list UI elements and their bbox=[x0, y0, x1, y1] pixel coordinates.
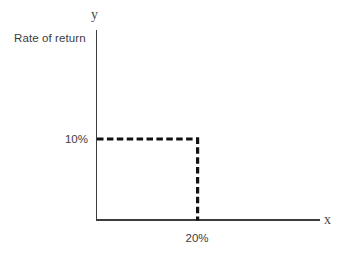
x-axis-tick-label-20-percent: 20% bbox=[147, 233, 247, 245]
y-axis-symbol-label: y bbox=[91, 8, 98, 22]
y-axis-title: Rate of return bbox=[14, 33, 86, 45]
y-axis-tick-label-10-percent: 10% bbox=[0, 134, 88, 146]
rate-of-return-chart: y x Rate of return 10% 20% bbox=[0, 0, 347, 258]
x-axis-symbol-label: x bbox=[324, 213, 331, 227]
